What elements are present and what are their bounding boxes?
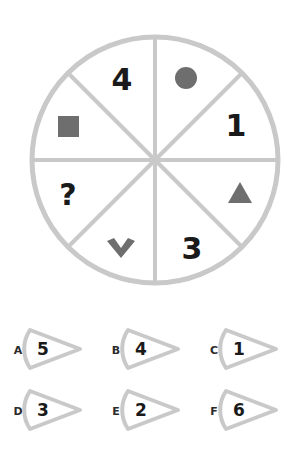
option-f-value: 6	[233, 400, 245, 420]
option-b-wedge[interactable]	[122, 330, 178, 368]
option-e-value: 2	[135, 400, 147, 420]
option-b-letter: B	[112, 344, 120, 357]
option-f[interactable]: F 6	[210, 391, 276, 429]
sector-right-upper: 1	[226, 108, 247, 143]
option-c-value: 1	[233, 339, 245, 359]
option-e-letter: E	[112, 405, 120, 418]
answer-options: A 5 B 4 C 1 D 3	[0, 312, 308, 472]
option-b[interactable]: B 4	[112, 330, 178, 368]
option-a[interactable]: A 5	[14, 330, 80, 368]
sector-top-right	[175, 67, 197, 89]
option-c-letter: C	[210, 344, 218, 357]
option-c[interactable]: C 1	[210, 330, 276, 368]
option-e[interactable]: E 2	[112, 391, 178, 429]
sector-bottom-right: 3	[182, 231, 203, 266]
sector-label-question: ?	[59, 177, 76, 212]
sector-label-4: 4	[112, 62, 133, 97]
option-a-letter: A	[14, 344, 23, 357]
sector-left-lower: ?	[59, 177, 76, 212]
pie-wheel: 1 3 ? 4	[0, 0, 308, 310]
option-e-wedge[interactable]	[122, 391, 178, 429]
sector-left-upper	[58, 116, 79, 137]
option-f-letter: F	[210, 405, 218, 418]
filled-circle-icon	[175, 67, 197, 89]
option-d-wedge[interactable]	[24, 391, 80, 429]
option-a-value: 5	[37, 339, 49, 359]
sector-top-left: 4	[112, 62, 133, 97]
sector-label-3: 3	[182, 231, 203, 266]
sector-label-1: 1	[226, 108, 247, 143]
filled-square-icon	[58, 116, 79, 137]
option-c-wedge[interactable]	[220, 330, 276, 368]
puzzle-canvas: 1 3 ? 4	[0, 0, 308, 472]
option-d-letter: D	[13, 405, 22, 418]
option-f-wedge[interactable]	[220, 391, 276, 429]
option-a-wedge[interactable]	[24, 330, 80, 368]
option-d-value: 3	[37, 400, 49, 420]
option-b-value: 4	[135, 339, 147, 359]
option-d[interactable]: D 3	[13, 391, 80, 429]
